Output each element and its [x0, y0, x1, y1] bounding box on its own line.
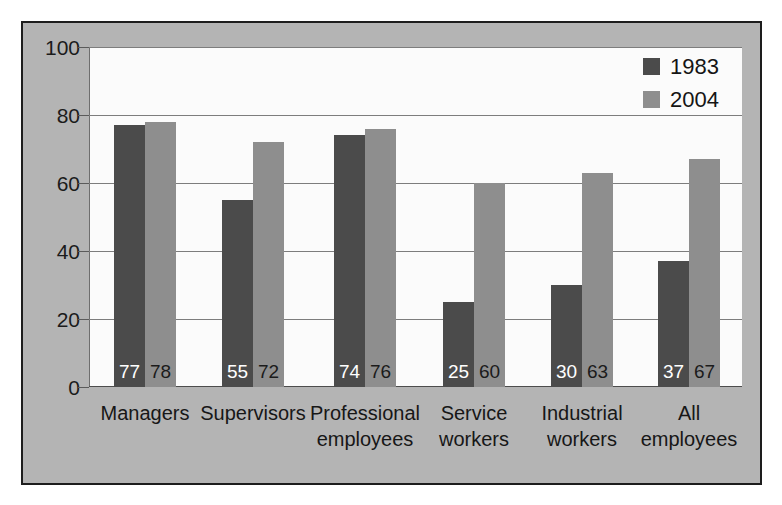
- bar-1983-2[interactable]: 74: [334, 135, 365, 387]
- legend-item-1983[interactable]: 1983: [643, 50, 719, 83]
- bar-1983-3[interactable]: 25: [443, 302, 474, 387]
- bar-1983-5[interactable]: 37: [658, 261, 689, 387]
- y-axis-tick: [78, 47, 89, 48]
- bar-value-label: 76: [365, 362, 396, 381]
- bar-2004-0[interactable]: 78: [145, 122, 176, 387]
- gridline: [89, 319, 742, 320]
- y-axis-tick: [78, 251, 89, 252]
- gridline: [89, 47, 742, 48]
- bar-value-label: 25: [443, 362, 474, 381]
- y-axis-tick-label: 100: [28, 37, 80, 58]
- x-axis-label-5: All employees: [604, 401, 774, 452]
- bar-1983-1[interactable]: 55: [222, 200, 253, 387]
- bar-1983-4[interactable]: 30: [551, 285, 582, 387]
- legend-swatch-2004: [643, 91, 660, 108]
- bar-2004-2[interactable]: 76: [365, 129, 396, 387]
- y-axis-line: [89, 47, 90, 387]
- y-axis-tick: [78, 387, 89, 388]
- bar-2004-3[interactable]: 60: [474, 183, 505, 387]
- bar-value-label: 60: [474, 362, 505, 381]
- legend-label: 2004: [670, 89, 719, 111]
- gridline: [89, 251, 742, 252]
- y-axis-tick-label: 0: [28, 377, 80, 398]
- bar-2004-4[interactable]: 63: [582, 173, 613, 387]
- chart-frame: 020406080100 777855727476256030633767 Ma…: [21, 21, 762, 485]
- bar-value-label: 63: [582, 362, 613, 381]
- bar-1983-0[interactable]: 77: [114, 125, 145, 387]
- bar-value-label: 30: [551, 362, 582, 381]
- bar-value-label: 55: [222, 362, 253, 381]
- legend-item-2004[interactable]: 2004: [643, 83, 719, 116]
- legend-label: 1983: [670, 56, 719, 78]
- bar-value-label: 78: [145, 362, 176, 381]
- bar-value-label: 37: [658, 362, 689, 381]
- y-axis-tick: [78, 319, 89, 320]
- x-axis-line: [89, 386, 742, 387]
- y-axis-tick: [78, 115, 89, 116]
- bar-2004-5[interactable]: 67: [689, 159, 720, 387]
- bar-value-label: 72: [253, 362, 284, 381]
- gridline: [89, 183, 742, 184]
- legend-swatch-1983: [643, 58, 660, 75]
- bar-value-label: 67: [689, 362, 720, 381]
- bar-2004-1[interactable]: 72: [253, 142, 284, 387]
- y-axis-tick-label: 20: [28, 309, 80, 330]
- bar-value-label: 74: [334, 362, 365, 381]
- chart-legend: 19832004: [643, 50, 719, 116]
- y-axis-tick-label: 60: [28, 173, 80, 194]
- y-axis-tick-label: 40: [28, 241, 80, 262]
- y-axis-tick: [78, 183, 89, 184]
- bar-value-label: 77: [114, 362, 145, 381]
- y-axis-tick-label: 80: [28, 105, 80, 126]
